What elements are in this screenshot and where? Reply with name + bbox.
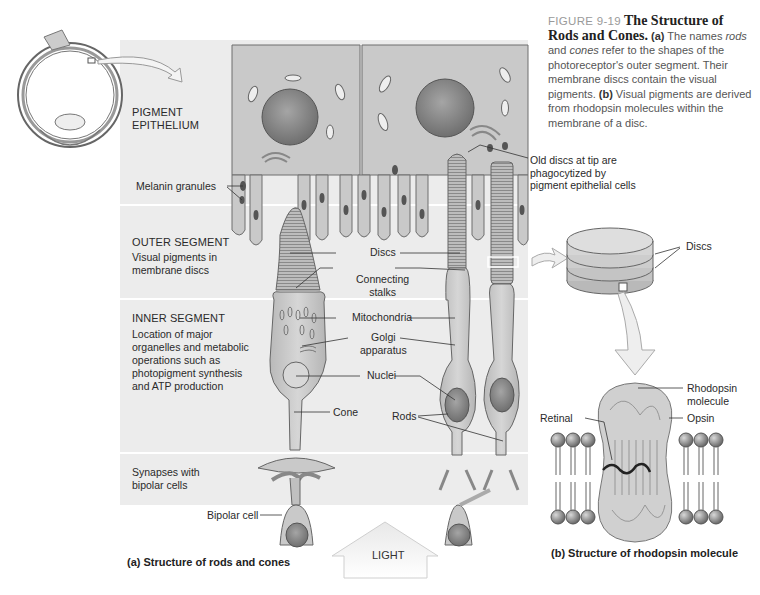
label-bipolar-cell: Bipolar cell — [207, 509, 258, 522]
disc-stack — [567, 228, 653, 294]
label-golgi-apparatus: Golgi apparatus — [360, 331, 407, 357]
caption-text: and — [548, 44, 569, 56]
label-discs-b: Discs — [686, 240, 712, 253]
subcaption-a: (a) Structure of rods and cones — [127, 556, 290, 568]
figure-caption: FIGURE 9-19 The Structure of Rods and Co… — [548, 14, 756, 130]
caption-emphasis-cones: cones — [569, 44, 598, 56]
part-a-marker: (a) — [651, 30, 664, 42]
label-old-discs: Old discs at tip are phagocytized by pig… — [530, 154, 636, 192]
label-line: apparatus — [360, 344, 407, 357]
label-retinal: Retinal — [540, 412, 573, 425]
caption-text: The names — [665, 30, 726, 42]
figure-number: FIGURE 9-19 — [548, 15, 621, 27]
region-title-line: EPITHELIUM — [132, 119, 199, 132]
label-discs: Discs — [370, 246, 396, 259]
region-desc-outer-segment: Visual pigments in membrane discs — [132, 251, 232, 277]
region-desc-inner-segment: Location of major organelles and metabol… — [132, 328, 257, 393]
label-line: Rhodopsin — [687, 382, 737, 395]
region-label-pigment-epithelium: PIGMENT EPITHELIUM — [132, 106, 199, 132]
label-nuclei: Nuclei — [367, 369, 396, 382]
label-line: phagocytized by — [530, 167, 636, 180]
label-mitochondria: Mitochondria — [352, 311, 412, 324]
part-b-marker: (b) — [599, 88, 613, 100]
label-rhodopsin-molecule: Rhodopsin molecule — [687, 382, 737, 407]
label-rods: Rods — [392, 410, 417, 423]
label-cone: Cone — [333, 406, 358, 419]
label-light: LIGHT — [372, 549, 404, 561]
label-line: molecule — [687, 395, 737, 408]
subcaption-b: (b) Structure of rhodopsin molecule — [551, 547, 738, 559]
region-desc-synapses: Synapses with bipolar cells — [132, 466, 222, 492]
label-line: pigment epithelial cells — [530, 179, 636, 192]
zoom-arrow-discs — [532, 248, 568, 268]
cone-cell — [258, 208, 335, 547]
region-title-line: PIGMENT — [132, 106, 199, 119]
label-opsin: Opsin — [687, 412, 714, 425]
pigment-epithelium-cells — [232, 45, 528, 245]
label-line: Golgi — [360, 331, 407, 344]
region-label-inner-segment: INNER SEGMENT — [132, 312, 225, 325]
zoom-arrow-rhodopsin — [615, 292, 655, 375]
label-melanin-granules: Melanin granules — [136, 180, 216, 193]
caption-emphasis-rods: rods — [725, 30, 746, 42]
rod-cell-1 — [440, 154, 476, 546]
label-line: stalks — [356, 286, 409, 299]
label-line: Connecting — [356, 273, 409, 286]
label-line: Old discs at tip are — [530, 154, 636, 167]
region-label-outer-segment: OUTER SEGMENT — [132, 236, 229, 249]
label-connecting-stalks: Connecting stalks — [356, 273, 409, 299]
